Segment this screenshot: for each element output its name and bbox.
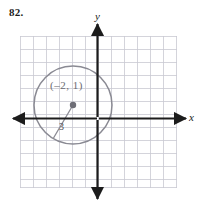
- y-axis-label: y: [95, 10, 100, 22]
- figure-container: 82.: [0, 0, 202, 205]
- x-axis-label: x: [189, 111, 194, 123]
- radius-length-label: 3: [59, 121, 64, 132]
- circle-graph: [20, 36, 177, 188]
- coordinate-plot: [20, 36, 177, 188]
- center-point: [70, 102, 76, 108]
- center-coordinate-label: (–2, 1): [50, 79, 83, 91]
- problem-number-label: 82.: [9, 6, 23, 18]
